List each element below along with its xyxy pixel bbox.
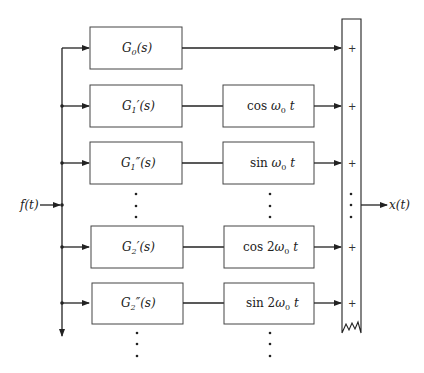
- filter-label-g2-prime: G2′(s): [122, 240, 155, 256]
- sum-sign: +: [348, 101, 356, 112]
- block-diagram: f(t) G0(s) + G1′(s) cos ω0 t + G1″(s) si…: [0, 0, 424, 373]
- row-g2-double-prime: G2″(s) sin 2ω0 t +: [60, 283, 356, 324]
- sum-sign: +: [348, 298, 356, 309]
- row-g1-prime: G1′(s) cos ω0 t +: [60, 85, 356, 127]
- filter-label-g2-double-prime: G2″(s): [121, 296, 156, 312]
- filter-label-g1-double-prime: G1″(s): [121, 156, 156, 172]
- filter-label-g0: G0(s): [122, 41, 153, 57]
- modulator-label-sin-w0t: sin ω0 t: [250, 156, 295, 172]
- filter-label-g1-prime: G1′(s): [122, 99, 155, 115]
- summing-junction: [342, 19, 361, 333]
- modulator-label-cos-w0t: cos ω0 t: [247, 99, 295, 115]
- output-label: x(t): [389, 198, 410, 212]
- row-g0: G0(s) +: [62, 27, 356, 69]
- modulator-label-cos-2w0t: cos 2ω0 t: [243, 240, 298, 256]
- ellipsis-middle: [135, 193, 353, 219]
- sum-sign: +: [348, 43, 356, 54]
- ellipsis-bottom: [136, 332, 272, 358]
- junction-dot: [60, 203, 64, 207]
- sum-sign: +: [348, 158, 356, 169]
- modulator-label-sin-2w0t: sin 2ω0 t: [246, 296, 299, 312]
- sum-sign: +: [348, 242, 356, 253]
- input-label: f(t): [19, 198, 39, 212]
- row-g2-prime: G2′(s) cos 2ω0 t +: [60, 226, 356, 268]
- row-g1-double-prime: G1″(s) sin ω0 t +: [60, 142, 356, 184]
